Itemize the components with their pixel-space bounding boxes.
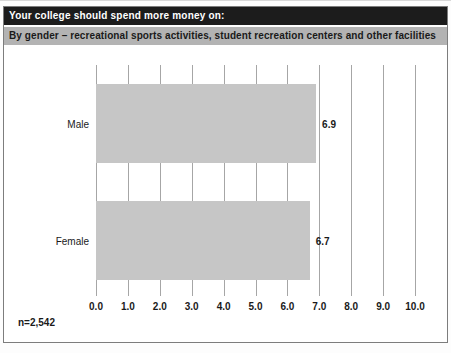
- chart-title-bar: Your college should spend more money on:: [4, 7, 447, 25]
- gridline: [319, 65, 320, 296]
- x-tick-label: 6.0: [271, 301, 303, 312]
- x-tick-label: 7.0: [303, 301, 335, 312]
- chart-subtitle-bar: By gender – recreational sports activiti…: [4, 27, 447, 45]
- x-tick-label: 10.0: [399, 301, 431, 312]
- bar-male: [96, 84, 316, 163]
- category-label-male: Male: [9, 118, 89, 129]
- gridline: [415, 65, 416, 296]
- value-label-male: 6.9: [322, 118, 336, 129]
- x-tick-label: 5.0: [240, 301, 272, 312]
- x-tick-label: 0.0: [80, 301, 112, 312]
- chart-card: Your college should spend more money on:…: [3, 6, 448, 343]
- x-tick-label: 8.0: [335, 301, 367, 312]
- category-label-female: Female: [9, 235, 89, 246]
- gridline: [351, 65, 352, 296]
- x-tick-label: 9.0: [367, 301, 399, 312]
- sample-size-note: n=2,542: [18, 317, 55, 328]
- value-label-female: 6.7: [316, 235, 330, 246]
- x-tick-label: 4.0: [208, 301, 240, 312]
- gridline: [383, 65, 384, 296]
- x-tick-label: 1.0: [112, 301, 144, 312]
- x-tick-label: 3.0: [176, 301, 208, 312]
- x-tick-label: 2.0: [144, 301, 176, 312]
- chart-page: Your college should spend more money on:…: [0, 0, 451, 353]
- plot-area: Male6.9Female6.7 0.01.02.03.04.05.06.07.…: [4, 45, 447, 342]
- bar-female: [96, 201, 310, 280]
